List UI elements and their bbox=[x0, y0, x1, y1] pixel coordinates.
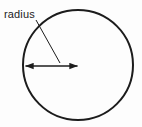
figure-canvas: radius bbox=[0, 0, 142, 127]
circle-radius-figure: radius bbox=[0, 0, 142, 127]
radius-label: radius bbox=[4, 8, 35, 20]
leader-line bbox=[36, 20, 60, 63]
